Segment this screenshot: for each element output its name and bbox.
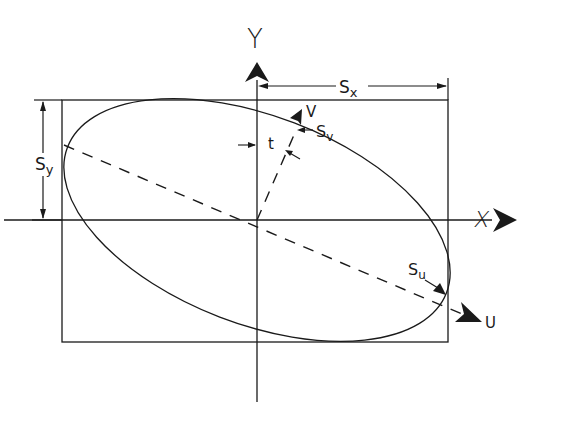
t-label: t xyxy=(268,135,274,153)
sx-label: Sx xyxy=(339,77,358,100)
su-label: Su xyxy=(408,260,426,282)
y-axis-label: Y xyxy=(247,24,263,54)
su-leader-line xyxy=(425,280,438,288)
bounding-rectangle xyxy=(62,100,448,342)
sx-arrow-left-icon xyxy=(258,83,268,89)
t-arrow-icon xyxy=(248,142,256,148)
error-ellipse-diagram: Sx Sy t Sv Su Y X U V xyxy=(0,0,566,427)
x-axis-arrowhead-icon xyxy=(493,208,517,232)
sv-arrow-icon xyxy=(297,127,305,133)
sy-arrow-bottom-icon xyxy=(40,209,46,219)
sy-label: Sy xyxy=(35,154,54,177)
v-axis-label: V xyxy=(306,103,317,121)
sx-arrow-right-icon xyxy=(437,83,447,89)
u-axis-dashed-line xyxy=(64,145,462,314)
y-axis-arrowhead-icon xyxy=(245,62,269,82)
sv-label: Sv xyxy=(316,122,333,144)
u-axis-label: U xyxy=(485,314,496,332)
t-arrow-right-icon xyxy=(285,150,293,156)
su-arrow-icon xyxy=(433,283,446,295)
sy-arrow-top-icon xyxy=(40,101,46,111)
x-axis-label: X xyxy=(472,206,492,232)
v-axis-dashed-line xyxy=(257,135,294,220)
